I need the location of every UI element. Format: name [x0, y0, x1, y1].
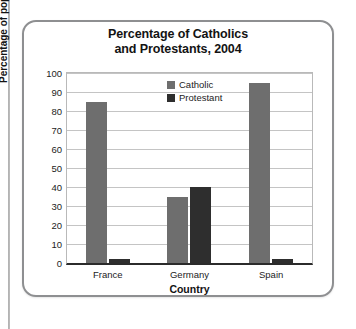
legend-swatch-protestant-icon: [167, 94, 175, 102]
y-axis-tick-label: 10: [51, 239, 62, 250]
bar-spain-catholic: [249, 83, 270, 264]
bar-france-catholic: [86, 102, 107, 264]
legend-item-protestant: Protestant: [167, 92, 222, 104]
legend-label-protestant: Protestant: [179, 92, 222, 104]
legend-item-catholic: Catholic: [167, 79, 222, 91]
chart-title-line-1: Percentage of Catholics: [30, 27, 326, 42]
y-axis-tick-label: 60: [51, 144, 62, 155]
legend-label-catholic: Catholic: [179, 79, 213, 91]
y-axis-tick-label: 90: [51, 87, 62, 98]
y-axis-tick-label: 40: [51, 182, 62, 193]
bar-germany-catholic: [167, 197, 188, 264]
bar-france-protestant: [109, 259, 130, 263]
chart-legend: Catholic Protestant: [167, 79, 222, 105]
x-axis-tick-label-france: France: [93, 269, 123, 280]
x-axis-label: Country: [67, 283, 312, 295]
chart-title: Percentage of Catholics and Protestants,…: [30, 27, 326, 57]
bar-group: [67, 73, 149, 263]
plot-area: 1009080706050403020100 FranceGermanySpai…: [66, 72, 313, 265]
y-axis-tick-label: 50: [51, 163, 62, 174]
y-axis-tick-label: 30: [51, 201, 62, 212]
bar-germany-protestant: [190, 187, 211, 263]
y-axis-tick-label: 100: [46, 68, 62, 79]
x-axis-tick-label-spain: Spain: [259, 269, 283, 280]
bar-group: [230, 73, 312, 263]
y-axis-tick-label: 80: [51, 106, 62, 117]
y-axis-tick-label: 0: [57, 258, 62, 269]
bar-spain-protestant: [272, 259, 293, 263]
y-axis-tick-label: 20: [51, 220, 62, 231]
y-axis-label: Percentage of population: [0, 0, 9, 88]
legend-swatch-catholic-icon: [167, 81, 175, 89]
x-axis-tick-label-germany: Germany: [170, 269, 209, 280]
chart-title-line-2: and Protestants, 2004: [30, 42, 326, 57]
y-axis-tick-label: 70: [51, 125, 62, 136]
